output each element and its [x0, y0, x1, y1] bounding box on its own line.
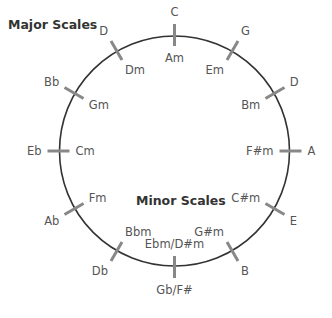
major-key-label: Eb [27, 144, 42, 158]
major-scales-title: Major Scales [8, 17, 97, 32]
major-key-label: Bb [44, 75, 59, 89]
minor-key-label: Gm [89, 98, 109, 112]
minor-key-label: F#m [246, 144, 273, 158]
key-tick [265, 88, 284, 99]
minor-key-label: C#m [231, 191, 260, 205]
major-key-label: D [290, 75, 299, 89]
major-key-label: B [241, 264, 249, 278]
minor-key-label: Am [165, 51, 184, 65]
key-tick [65, 204, 84, 215]
minor-key-label: Fm [89, 191, 107, 205]
minor-key-label: Bm [241, 98, 260, 112]
major-key-label: A [308, 144, 316, 158]
minor-key-label: Em [206, 63, 224, 77]
minor-key-label: Ebm/D#m [145, 237, 204, 251]
key-tick [227, 41, 238, 60]
circle-of-fifths-diagram: Major Scales Minor Scales CAmGEmDBmAF#mE… [0, 0, 332, 318]
key-tick [227, 242, 238, 261]
key-tick [111, 242, 122, 261]
major-key-label: G [241, 24, 250, 38]
major-key-label: Db [92, 264, 108, 278]
key-labels: CAmGEmDBmAF#mEC#mBG#mGb/F#Ebm/D#mDbBbmAb… [27, 5, 316, 297]
key-tick [111, 41, 122, 60]
major-key-label: Gb/F# [156, 283, 192, 297]
major-key-label: C [170, 5, 178, 19]
major-key-label: Ab [44, 214, 59, 228]
key-tick [65, 88, 84, 99]
minor-key-label: Cm [76, 144, 95, 158]
minor-key-label: Bbm [125, 225, 151, 239]
major-key-label: E [290, 214, 297, 228]
major-key-label: D [99, 24, 108, 38]
minor-scales-title: Minor Scales [136, 193, 226, 208]
minor-key-label: Dm [125, 63, 145, 77]
key-tick [265, 204, 284, 215]
